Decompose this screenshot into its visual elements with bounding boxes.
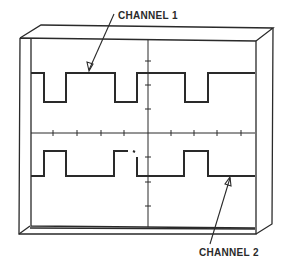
channel-2-trace	[31, 151, 128, 176]
channel-2-label: CHANNEL 2	[199, 247, 259, 258]
cabinet-outline	[19, 25, 273, 234]
graticule	[31, 40, 255, 227]
channel-1-arrow	[87, 14, 114, 71]
channel-1-label: CHANNEL 1	[118, 10, 178, 21]
channel-2-trace-continued-2	[137, 151, 255, 176]
oscilloscope-diagram: CHANNEL 1 CHANNEL 2	[0, 0, 290, 270]
oscilloscope-drawing	[0, 0, 290, 270]
channel-2-trace-continued	[133, 151, 135, 152]
channel-1-trace	[31, 73, 255, 102]
